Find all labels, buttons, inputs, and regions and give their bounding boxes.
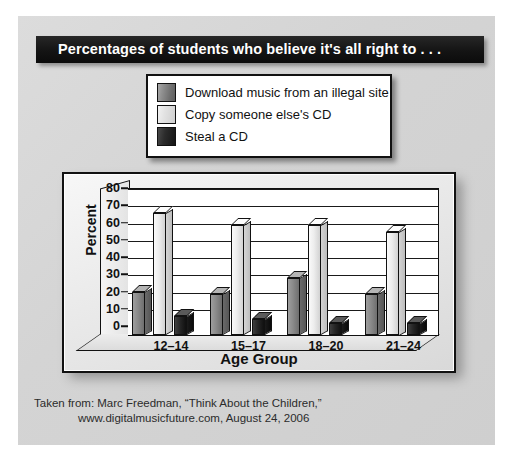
bar-face xyxy=(231,225,244,335)
y-axis-tick-mark xyxy=(121,205,128,207)
bar-face xyxy=(252,319,265,335)
legend-item: Copy someone else's CD xyxy=(157,104,331,124)
chart-bar xyxy=(407,323,420,335)
legend-item: Download music from an illegal site xyxy=(157,82,389,102)
y-axis-tick-label: 60 xyxy=(92,216,120,230)
y-axis-tick-mark xyxy=(121,239,128,241)
chart-bar xyxy=(365,294,378,335)
y-axis-ticks: 01020304050607080 xyxy=(94,174,128,350)
bar-face xyxy=(407,323,420,335)
y-axis-tick-label: 70 xyxy=(92,198,120,212)
x-axis-title: Age Group xyxy=(64,350,454,367)
y-axis-tick-label: 50 xyxy=(92,233,120,247)
bar-side xyxy=(300,274,307,335)
bar-face xyxy=(210,294,223,335)
legend-swatch-copy-icon xyxy=(157,105,176,124)
chart-bar xyxy=(287,278,300,335)
y-axis-tick-label: 10 xyxy=(92,302,120,316)
legend-item-label: Download music from an illegal site xyxy=(185,85,389,100)
y-axis-tick-label: 0 xyxy=(92,319,120,333)
caption-line-2: www.digitalmusicfuture.com, August 24, 2… xyxy=(34,411,454,426)
chart-bar xyxy=(308,225,321,335)
legend-item: Steal a CD xyxy=(157,126,248,146)
bar-face xyxy=(386,232,399,336)
bar-side xyxy=(321,221,328,335)
y-axis-tick-mark xyxy=(121,274,128,276)
y-axis-tick-mark xyxy=(121,308,128,310)
bar-side xyxy=(244,221,251,335)
gridline xyxy=(128,224,438,225)
bar-face xyxy=(132,292,145,335)
bar-side xyxy=(399,227,406,335)
y-axis-tick-label: 30 xyxy=(92,267,120,281)
chart-bar xyxy=(231,225,244,335)
caption-line-1: Taken from: Marc Freedman, “Think About … xyxy=(34,396,454,411)
chart-legend: Download music from an illegal site Copy… xyxy=(146,74,392,158)
figure-root: Percentages of students who believe it's… xyxy=(0,0,519,462)
bar-face xyxy=(153,213,166,335)
gridline xyxy=(128,206,438,207)
chart-bar xyxy=(132,292,145,335)
y-axis-tick-mark xyxy=(121,256,128,258)
plot-area xyxy=(128,188,439,336)
bar-side xyxy=(223,290,230,335)
y-axis-tick-mark xyxy=(121,291,128,293)
page-title: Percentages of students who believe it's… xyxy=(58,36,476,63)
gridline xyxy=(128,189,438,190)
y-axis-tick-mark xyxy=(121,325,128,327)
y-axis-tick-label: 80 xyxy=(92,181,120,195)
legend-swatch-download-icon xyxy=(157,83,176,102)
chart-bar xyxy=(386,232,399,336)
chart-bar xyxy=(252,319,265,335)
legend-item-label: Steal a CD xyxy=(185,129,248,144)
bar-chart: Percent 01020304050607080 12–1415–1718–2… xyxy=(62,172,452,369)
legend-swatch-steal-icon xyxy=(157,127,176,146)
bar-side xyxy=(378,290,385,335)
y-axis-tick-mark xyxy=(121,187,128,189)
figure-title-bar: Percentages of students who believe it's… xyxy=(36,36,484,63)
legend-item-label: Copy someone else's CD xyxy=(185,107,331,122)
bar-face xyxy=(174,316,187,335)
y-axis-tick-label: 40 xyxy=(92,250,120,264)
y-axis-tick-mark xyxy=(121,222,128,224)
chart-bar xyxy=(210,294,223,335)
bar-face xyxy=(329,323,342,335)
bar-face xyxy=(287,278,300,335)
bar-side xyxy=(166,208,173,335)
bar-face xyxy=(308,225,321,335)
bar-side xyxy=(187,312,194,335)
chart-frame: Percent 01020304050607080 12–1415–1718–2… xyxy=(62,172,456,373)
source-caption: Taken from: Marc Freedman, “Think About … xyxy=(34,396,454,426)
bar-face xyxy=(365,294,378,335)
y-axis-tick-label: 20 xyxy=(92,285,120,299)
chart-bar xyxy=(153,213,166,335)
bar-side xyxy=(145,288,152,335)
chart-bar xyxy=(174,316,187,335)
chart-bar xyxy=(329,323,342,335)
